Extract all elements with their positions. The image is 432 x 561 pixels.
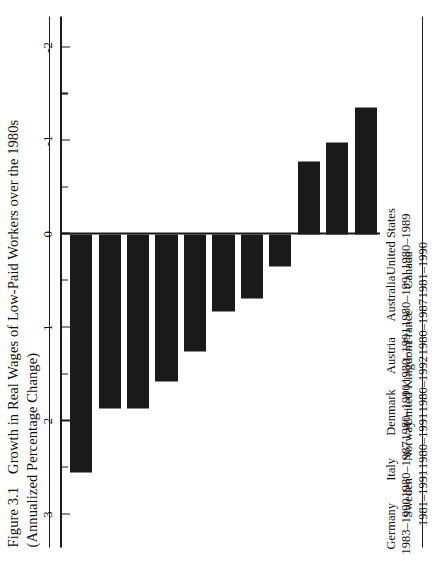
category-name: Austria xyxy=(384,327,399,383)
bar xyxy=(127,234,149,409)
axis-tick-major xyxy=(61,326,70,327)
bar xyxy=(184,234,206,351)
axis-tick-major xyxy=(61,419,70,420)
axis-tick-minor xyxy=(61,279,68,280)
bar xyxy=(355,107,377,234)
category-period: 1981–1991 xyxy=(416,469,431,525)
category-name: Germany xyxy=(384,498,399,554)
plot-area: 3210-1-2 xyxy=(60,16,380,547)
axis-tick-major xyxy=(61,46,70,47)
axis-tick-minor xyxy=(61,186,68,187)
figure-title-line: Figure 3.1Growth in Real Wages of Low-Pa… xyxy=(4,7,23,547)
category-period: 1980–1989 xyxy=(399,208,414,275)
axis-tick-label: -1 xyxy=(40,135,56,146)
axis-tick-label: 3 xyxy=(40,511,56,518)
figure-subtitle: (Annualized Percentage Change) xyxy=(23,7,42,547)
caption-rule xyxy=(49,16,50,547)
category-name: Denmark xyxy=(384,384,399,440)
bar xyxy=(70,234,92,472)
axis-tick-major xyxy=(61,139,70,140)
category-name: Australia xyxy=(384,270,399,326)
axis-tick-minor xyxy=(61,373,68,374)
category-name: Italy xyxy=(384,441,399,497)
axis-tick-minor xyxy=(61,92,68,93)
bar xyxy=(269,234,291,267)
axis-tick-label: -2 xyxy=(40,42,56,53)
figure-number: Figure 3.1 xyxy=(4,486,23,547)
bar xyxy=(326,142,348,234)
category-period: 1980–1987 xyxy=(416,298,431,354)
bar xyxy=(241,234,263,298)
axis-tick-minor xyxy=(61,466,68,467)
bar xyxy=(99,234,121,409)
bar xyxy=(212,234,234,312)
axis-tick-label: 2 xyxy=(40,417,56,424)
axis-tick-major xyxy=(61,513,70,514)
category-period: 1981–1990 xyxy=(416,242,431,298)
bar xyxy=(155,234,177,382)
category-name: United States xyxy=(384,208,399,275)
figure-title: Growth in Real Wages of Low-Paid Workers… xyxy=(5,119,21,473)
figure-caption: Figure 3.1Growth in Real Wages of Low-Pa… xyxy=(4,7,42,547)
axis-tick-major xyxy=(61,232,70,233)
axis-tick-label: 0 xyxy=(40,231,56,238)
bar xyxy=(298,161,320,234)
axis-tick-label: 1 xyxy=(40,324,56,331)
category-label: United States1980–1989 xyxy=(384,208,415,275)
